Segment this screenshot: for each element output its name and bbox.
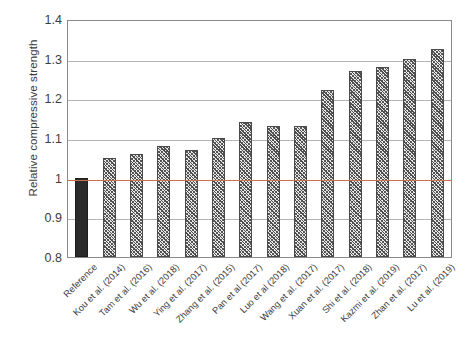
bar-slot bbox=[342, 21, 369, 257]
y-tick-label: 1.3 bbox=[26, 53, 62, 67]
bar-slot bbox=[287, 21, 314, 257]
bar-slot bbox=[68, 21, 95, 257]
bar bbox=[103, 158, 116, 257]
bar bbox=[431, 49, 444, 257]
bar bbox=[185, 150, 198, 257]
y-tick-label: 1 bbox=[26, 172, 62, 186]
bar bbox=[267, 126, 280, 257]
bar bbox=[130, 154, 143, 257]
bar-slot bbox=[424, 21, 451, 257]
bar bbox=[239, 122, 252, 257]
bar-slot bbox=[177, 21, 204, 257]
bar-slot bbox=[150, 21, 177, 257]
bar-slot bbox=[205, 21, 232, 257]
bar-series bbox=[68, 21, 451, 257]
bar-slot bbox=[369, 21, 396, 257]
reference-line bbox=[68, 180, 451, 181]
y-tick-label: 0.9 bbox=[26, 211, 62, 225]
bar bbox=[349, 71, 362, 257]
bar-slot bbox=[232, 21, 259, 257]
bar bbox=[157, 146, 170, 257]
bar bbox=[321, 90, 334, 257]
bar bbox=[294, 126, 307, 257]
bar-slot bbox=[396, 21, 423, 257]
y-axis-tick-labels: 1.41.31.21.110.90.8 bbox=[26, 0, 62, 344]
y-tick-label: 1.4 bbox=[26, 13, 62, 27]
bar bbox=[403, 59, 416, 257]
y-tick-label: 0.8 bbox=[26, 251, 62, 265]
plot-area bbox=[67, 20, 452, 258]
x-axis-tick-labels: ReferenceKou et al. (2014)Tam et al. (20… bbox=[67, 262, 452, 344]
bar-slot bbox=[260, 21, 287, 257]
bar bbox=[212, 138, 225, 257]
bar bbox=[75, 178, 88, 257]
y-tick-label: 1.2 bbox=[26, 92, 62, 106]
x-tick-label: Luo et al (2018) bbox=[238, 262, 291, 315]
bar-slot bbox=[95, 21, 122, 257]
bar bbox=[376, 67, 389, 257]
bar-slot bbox=[314, 21, 341, 257]
bar-slot bbox=[123, 21, 150, 257]
y-tick-label: 1.1 bbox=[26, 132, 62, 146]
chart-figure: Relative compressive strength 1.41.31.21… bbox=[0, 0, 472, 344]
